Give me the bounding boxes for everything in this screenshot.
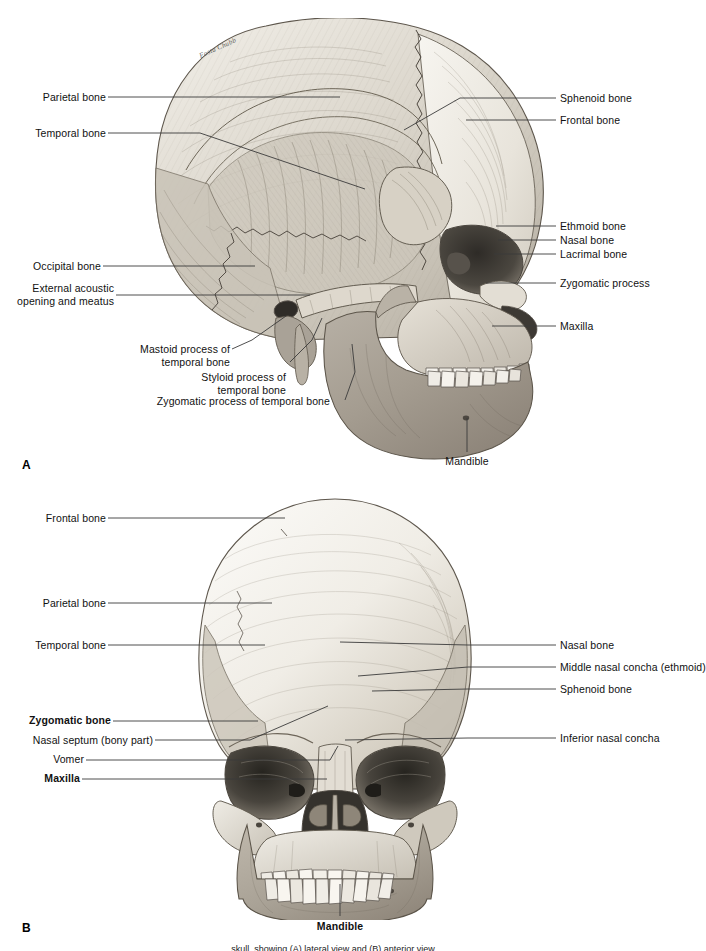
label-a-mastoid-process: Mastoid process of temporal bone (140, 343, 230, 368)
label-b-nasal-bone: Nasal bone (560, 639, 614, 652)
label-b-nasal-septum: Nasal septum (bony part) (8, 734, 153, 747)
label-b-vomer: Vomer (8, 753, 84, 766)
label-a-nasal-bone: Nasal bone (560, 234, 614, 247)
label-b-maxilla: Maxilla (8, 772, 80, 785)
panel-a-lateral-view: Fosta Chubb Parietal bone Temporal bone … (0, 0, 666, 490)
panel-a-letter: A (22, 459, 31, 471)
figure-caption: skull, showing (A) lateral view and (B) … (0, 944, 666, 951)
panel-b-anterior-view: Frontal bone Parietal bone Temporal bone… (0, 490, 666, 951)
label-b-frontal-bone: Frontal bone (22, 512, 106, 525)
label-b-mandible: Mandible (290, 920, 390, 933)
label-a-mandible: Mandible (417, 455, 517, 468)
label-a-zygomatic-process: Zygomatic process (560, 277, 650, 290)
label-a-ethmoid-bone: Ethmoid bone (560, 220, 626, 233)
label-a-zygomatic-process-of-temporal-bone: Zygomatic process of temporal bone (132, 395, 330, 408)
label-b-zygomatic-bone: Zygomatic bone (8, 714, 111, 727)
label-a-temporal-bone: Temporal bone (16, 127, 106, 140)
label-a-maxilla: Maxilla (560, 320, 593, 333)
label-b-sphenoid-bone: Sphenoid bone (560, 683, 632, 696)
label-a-lacrimal-bone: Lacrimal bone (560, 248, 627, 261)
panel-b-letter: B (22, 922, 31, 934)
label-b-middle-nasal-concha: Middle nasal concha (ethmoid) (560, 661, 706, 674)
label-a-sphenoid-bone: Sphenoid bone (560, 92, 632, 105)
label-a-styloid-process: Styloid process of temporal bone (190, 371, 286, 396)
label-b-inferior-nasal-concha: Inferior nasal concha (560, 732, 660, 745)
skull-anterior-illustration (185, 495, 485, 920)
label-a-occipital-bone: Occipital bone (18, 260, 101, 273)
label-a-frontal-bone: Frontal bone (560, 114, 620, 127)
skull-lateral-illustration (150, 18, 570, 478)
label-b-temporal-bone: Temporal bone (16, 639, 106, 652)
label-a-parietal-bone: Parietal bone (22, 91, 106, 104)
label-a-external-acoustic-opening: External acoustic opening and meatus (12, 282, 114, 307)
label-b-parietal-bone: Parietal bone (22, 597, 106, 610)
